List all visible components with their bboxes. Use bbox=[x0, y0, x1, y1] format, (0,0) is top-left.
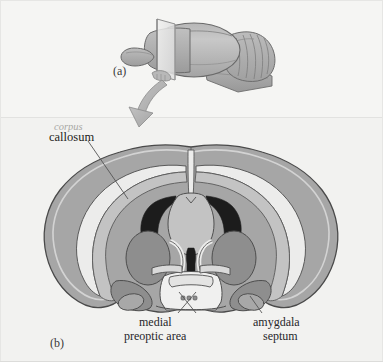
anatomy-figure: (a) (b) corpus callosum medial preoptic … bbox=[0, 0, 383, 362]
label-callosum: callosum bbox=[49, 131, 94, 144]
panel-b-label: (b) bbox=[50, 336, 64, 351]
figure-canvas bbox=[0, 0, 383, 362]
label-preoptic-area: preoptic area bbox=[124, 330, 186, 343]
panel-a-label: (a) bbox=[113, 64, 126, 79]
panel-b-coronal-section bbox=[44, 141, 338, 313]
label-medial: medial bbox=[139, 316, 172, 329]
label-septum: septum bbox=[263, 330, 298, 343]
label-amygdala: amygdala bbox=[253, 316, 300, 329]
optic-chiasm-band bbox=[169, 275, 213, 287]
midline-gap bbox=[188, 150, 194, 196]
